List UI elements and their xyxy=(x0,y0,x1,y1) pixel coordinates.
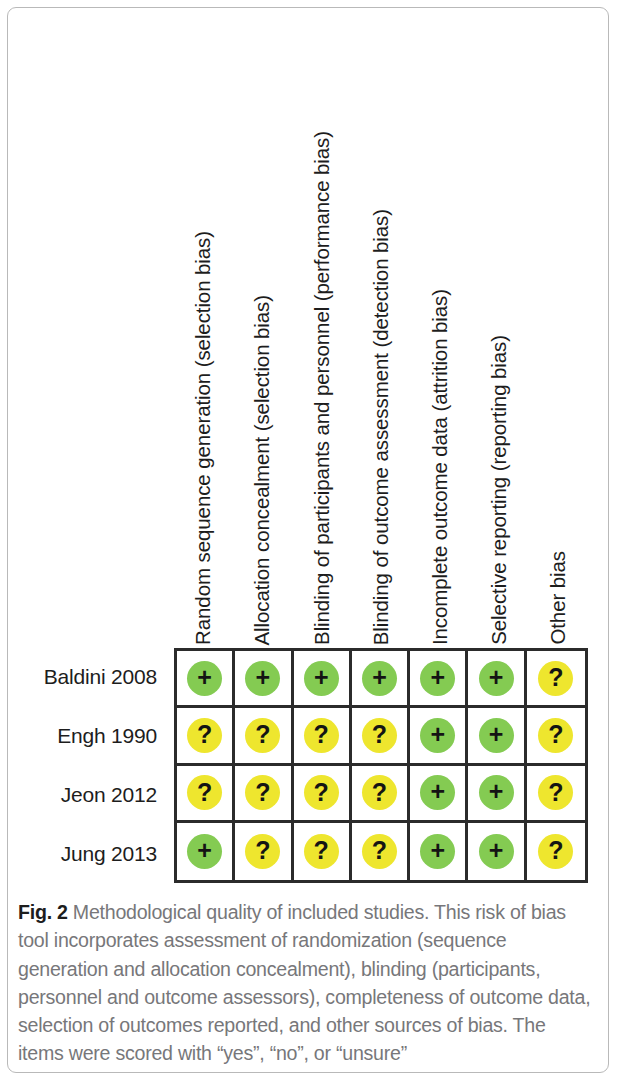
unclear-risk-icon: ? xyxy=(538,834,573,869)
judgement-symbol: + xyxy=(314,665,329,690)
judgement-symbol: + xyxy=(489,722,504,747)
column-header-5: Incomplete outcome data (attrition bias) xyxy=(411,0,470,645)
risk-cell: ? xyxy=(352,708,410,765)
risk-cell: + xyxy=(177,651,235,708)
risk-cell: + xyxy=(294,651,352,708)
low-risk-icon: + xyxy=(420,775,455,810)
unclear-risk-icon: ? xyxy=(538,775,573,810)
study-label: Jung 2013 xyxy=(0,824,166,883)
column-header-label: Allocation concealment (selection bias) xyxy=(252,292,273,645)
risk-cell: ? xyxy=(352,766,410,823)
judgement-symbol: ? xyxy=(548,838,563,863)
judgement-symbol: + xyxy=(256,665,271,690)
risk-cell: ? xyxy=(527,823,585,880)
column-header-2: Allocation concealment (selection bias) xyxy=(233,0,292,645)
judgement-symbol: ? xyxy=(197,722,212,747)
column-header-label: Blinding of outcome assessment (detectio… xyxy=(371,206,392,645)
judgement-symbol: + xyxy=(197,665,212,690)
low-risk-icon: + xyxy=(479,775,514,810)
judgement-symbol: ? xyxy=(548,780,563,805)
column-header-label: Other bias xyxy=(548,548,569,645)
risk-cell: ? xyxy=(235,708,293,765)
judgement-symbol: ? xyxy=(372,722,387,747)
low-risk-icon: + xyxy=(245,661,280,696)
low-risk-icon: + xyxy=(420,718,455,753)
judgement-symbol: + xyxy=(372,665,387,690)
unclear-risk-icon: ? xyxy=(304,718,339,753)
column-header-4: Blinding of outcome assessment (detectio… xyxy=(351,0,410,645)
low-risk-icon: + xyxy=(479,718,514,753)
unclear-risk-icon: ? xyxy=(362,718,397,753)
low-risk-icon: + xyxy=(304,661,339,696)
judgement-symbol: + xyxy=(430,722,445,747)
figure-caption-body: Methodological quality of included studi… xyxy=(18,901,590,1064)
judgement-symbol: ? xyxy=(255,838,270,863)
risk-cell: ? xyxy=(352,823,410,880)
unclear-risk-icon: ? xyxy=(187,718,222,753)
unclear-risk-icon: ? xyxy=(538,718,573,753)
judgement-symbol: ? xyxy=(314,838,329,863)
judgement-symbol: + xyxy=(430,665,445,690)
risk-cell: + xyxy=(468,651,526,708)
low-risk-icon: + xyxy=(362,661,397,696)
low-risk-icon: + xyxy=(479,661,514,696)
unclear-risk-icon: ? xyxy=(245,834,280,869)
column-header-row: Random sequence generation (selection bi… xyxy=(174,0,588,645)
low-risk-icon: + xyxy=(420,834,455,869)
judgement-symbol: ? xyxy=(197,780,212,805)
risk-cell: ? xyxy=(235,823,293,880)
unclear-risk-icon: ? xyxy=(304,775,339,810)
low-risk-icon: + xyxy=(479,834,514,869)
risk-cell: + xyxy=(468,708,526,765)
risk-cell: ? xyxy=(294,823,352,880)
unclear-risk-icon: ? xyxy=(304,834,339,869)
judgement-symbol: + xyxy=(197,838,212,863)
risk-cell: + xyxy=(468,766,526,823)
judgement-symbol: ? xyxy=(314,780,329,805)
column-header-label: Selective reporting (reporting bias) xyxy=(489,332,510,645)
unclear-risk-icon: ? xyxy=(362,775,397,810)
risk-cell: + xyxy=(468,823,526,880)
figure-caption-label: Fig. 2 xyxy=(18,901,68,923)
unclear-risk-icon: ? xyxy=(245,775,280,810)
risk-cell: ? xyxy=(235,766,293,823)
risk-cell: ? xyxy=(294,708,352,765)
risk-cell: ? xyxy=(294,766,352,823)
risk-cell: + xyxy=(235,651,293,708)
risk-cell: ? xyxy=(527,766,585,823)
unclear-risk-icon: ? xyxy=(245,718,280,753)
study-label: Baldini 2008 xyxy=(0,648,166,707)
judgement-symbol: ? xyxy=(314,722,329,747)
judgement-symbol: ? xyxy=(372,780,387,805)
risk-cell: + xyxy=(410,766,468,823)
risk-cell: + xyxy=(410,708,468,765)
judgement-symbol: ? xyxy=(548,665,563,690)
low-risk-icon: + xyxy=(187,834,222,869)
risk-cell: + xyxy=(177,823,235,880)
unclear-risk-icon: ? xyxy=(187,775,222,810)
risk-of-bias-grid: ++++++?????++?????++?+???++? xyxy=(174,648,588,883)
risk-cell: + xyxy=(352,651,410,708)
column-header-label: Blinding of participants and personnel (… xyxy=(312,128,333,645)
risk-cell: ? xyxy=(177,766,235,823)
risk-cell: ? xyxy=(177,708,235,765)
low-risk-icon: + xyxy=(420,661,455,696)
study-label: Engh 1990 xyxy=(0,707,166,766)
figure-caption: Fig. 2 Methodological quality of include… xyxy=(18,898,594,1068)
judgement-symbol: + xyxy=(489,838,504,863)
risk-cell: + xyxy=(410,823,468,880)
judgement-symbol: ? xyxy=(372,838,387,863)
judgement-symbol: ? xyxy=(255,722,270,747)
risk-cell: + xyxy=(410,651,468,708)
unclear-risk-icon: ? xyxy=(362,834,397,869)
risk-cell: ? xyxy=(527,651,585,708)
column-header-1: Random sequence generation (selection bi… xyxy=(174,0,233,645)
judgement-symbol: + xyxy=(489,779,504,804)
judgement-symbol: + xyxy=(489,665,504,690)
study-label: Jeon 2012 xyxy=(0,766,166,825)
judgement-symbol: ? xyxy=(255,780,270,805)
unclear-risk-icon: ? xyxy=(538,661,573,696)
judgement-symbol: ? xyxy=(548,722,563,747)
study-label-column: Baldini 2008Engh 1990Jeon 2012Jung 2013 xyxy=(0,648,166,883)
column-header-7: Other bias xyxy=(529,0,588,645)
